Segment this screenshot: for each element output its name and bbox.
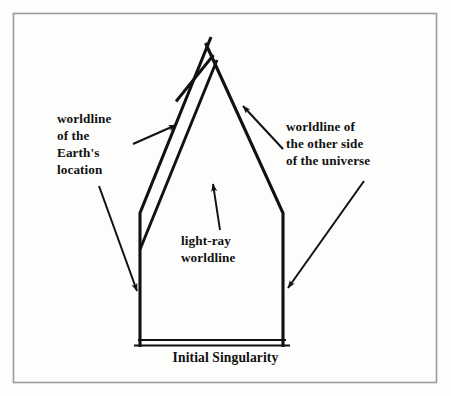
label-initial-singularity: Initial Singularity: [0, 349, 451, 367]
earth-worldline-path: [140, 37, 211, 347]
pointer-earth-worldline-lower: [99, 186, 137, 291]
pointer-other-side-upper: [243, 106, 283, 149]
other-side-worldline-path: [206, 43, 284, 347]
label-light-ray-worldline: light-ray worldline: [181, 232, 235, 266]
light-ray-worldline-path: [140, 60, 217, 250]
upper-null-segment-path: [176, 55, 214, 102]
initial-singularity-line: [134, 340, 290, 346]
pointer-other-side-lower: [288, 181, 364, 288]
figure-root: worldline of the Earth's location worldl…: [0, 0, 451, 396]
pointer-light-ray: [213, 184, 220, 230]
label-other-side-worldline: worldline of the other side of the unive…: [286, 118, 370, 169]
spacetime-diagram-svg: [0, 0, 451, 396]
figure-border: [14, 14, 437, 383]
label-earth-worldline: worldline of the Earth's location: [57, 110, 111, 179]
